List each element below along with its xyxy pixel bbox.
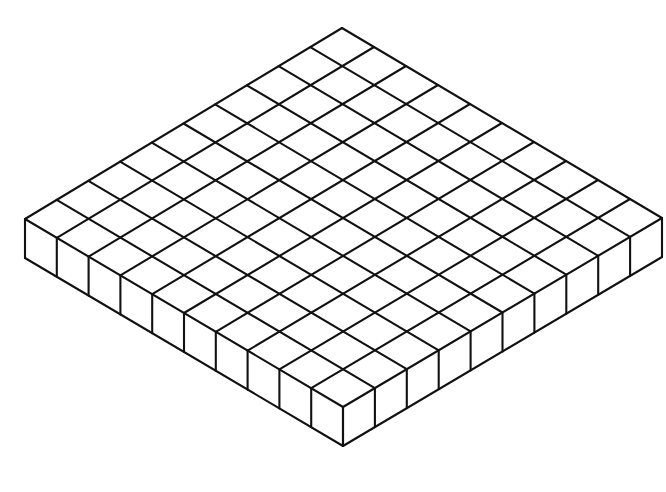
isometric-cube-flat xyxy=(0,0,666,492)
